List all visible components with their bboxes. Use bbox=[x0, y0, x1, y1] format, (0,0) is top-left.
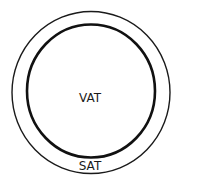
vat-label: VAT bbox=[79, 91, 102, 105]
sat-label: SAT bbox=[79, 159, 102, 173]
fat-compartment-diagram: VAT SAT bbox=[0, 0, 216, 186]
